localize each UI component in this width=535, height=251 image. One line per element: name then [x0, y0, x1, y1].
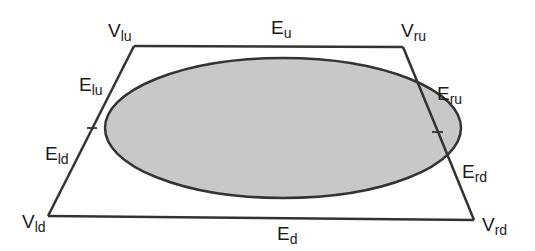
diagram-canvas: Vlu Eu Vru Elu Eru Eld Erd Vld Ed Vrd [0, 0, 535, 251]
label-v-ld: Vld [22, 211, 46, 235]
label-v-rd: Vrd [482, 214, 507, 238]
edge-lower [48, 216, 474, 220]
label-v-lu: Vlu [108, 20, 132, 44]
label-v-ru: Vru [401, 20, 426, 44]
label-e-u: Eu [271, 17, 291, 41]
edge-upper [134, 46, 403, 47]
label-e-lu: Elu [79, 74, 103, 98]
label-e-ld: Eld [45, 143, 69, 167]
label-e-rd: Erd [462, 161, 487, 185]
label-e-d: Ed [277, 223, 297, 247]
ellipse-region [105, 58, 461, 198]
label-e-ru: Eru [437, 83, 462, 107]
